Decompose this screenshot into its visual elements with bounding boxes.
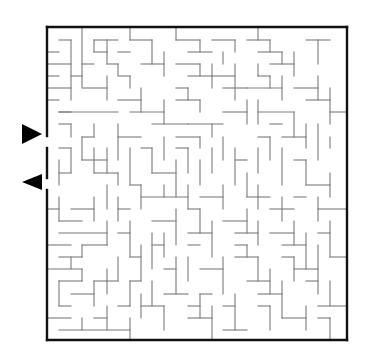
maze-border [47, 27, 347, 340]
maze-walls [47, 27, 347, 340]
maze-canvas[interactable] [0, 0, 369, 362]
exit-arrow-icon [22, 174, 42, 190]
entrance-arrow-icon [22, 124, 42, 144]
maze-puzzle: Maze [0, 0, 369, 362]
